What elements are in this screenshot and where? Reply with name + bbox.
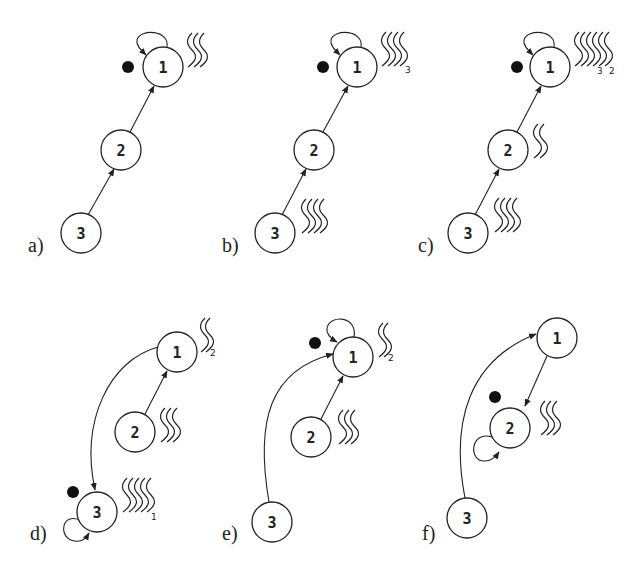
wave-icon-node-2 (541, 401, 561, 435)
node-3: 3 (61, 213, 101, 253)
panel-label-b: b) (222, 234, 239, 257)
svg-text:1: 1 (172, 344, 181, 362)
svg-text:3: 3 (76, 225, 85, 243)
svg-text:3: 3 (270, 225, 279, 243)
node-2: 2 (115, 412, 155, 452)
svg-text:2: 2 (505, 420, 514, 438)
token-dot (67, 486, 79, 498)
svg-text:1: 1 (545, 59, 554, 77)
panel-d: 1 2 3 2 1 d) (30, 318, 216, 545)
panel-label-d: d) (30, 522, 47, 545)
svg-text:2: 2 (309, 142, 318, 160)
panel-c: 1 2 3 3 2 c) (418, 32, 615, 257)
edge-3-to-2 (282, 169, 306, 215)
edge-2-to-1 (323, 86, 348, 132)
svg-text:3: 3 (463, 225, 472, 243)
edge-2-to-1 (130, 86, 154, 132)
token-dot (309, 337, 321, 349)
wave-icon-node-1: 2 (379, 323, 394, 363)
wave-subscript: 2 (609, 66, 615, 76)
token-dot (317, 61, 329, 73)
svg-text:3: 3 (267, 514, 276, 532)
wave-icon-node-3 (495, 198, 521, 232)
svg-text:2: 2 (503, 142, 512, 160)
wave-subscript: 2 (388, 353, 394, 363)
node-1: 1 (537, 318, 577, 358)
node-3: 3 (77, 492, 117, 532)
panel-b: 1 2 3 3 b) (222, 32, 411, 257)
svg-text:1: 1 (348, 349, 357, 367)
panel-a: 1 2 3 a) (28, 32, 207, 257)
svg-text:1: 1 (552, 330, 561, 348)
node-3: 3 (448, 213, 488, 253)
node-1: 1 (143, 47, 183, 87)
panel-e: 1 2 3 2 e) (222, 319, 394, 545)
wave-subscript: 3 (597, 66, 603, 76)
svg-text:1: 1 (158, 59, 167, 77)
node-2: 2 (490, 408, 530, 448)
edge-3-to-2 (88, 169, 114, 215)
edge-3-to-2 (475, 169, 499, 215)
token-dot (511, 61, 523, 73)
token-dot (122, 61, 134, 73)
node-1: 1 (337, 47, 377, 87)
wave-subscript: 2 (210, 348, 216, 358)
node-1: 1 (530, 47, 570, 87)
panel-f: 1 2 3 f) (422, 318, 577, 545)
wave-icon-node-1: 3 2 (575, 32, 615, 76)
panel-label-c: c) (418, 234, 434, 257)
node-1: 1 (157, 332, 197, 372)
wave-icon-node-2 (161, 408, 181, 442)
node-3: 3 (252, 502, 292, 542)
node-3: 3 (255, 213, 295, 253)
svg-text:3: 3 (92, 504, 101, 522)
wave-icon-node-3: 1 (123, 478, 157, 522)
node-3: 3 (447, 498, 487, 538)
svg-text:2: 2 (130, 424, 139, 442)
wave-subscript: 3 (405, 65, 411, 75)
node-2: 2 (101, 130, 141, 170)
svg-text:2: 2 (306, 429, 315, 447)
wave-icon-node-1: 3 (382, 32, 411, 75)
wave-icon-node-1: 2 (201, 318, 216, 358)
node-2: 2 (488, 130, 528, 170)
edge-2-to-1 (321, 376, 343, 419)
node-2: 2 (294, 130, 334, 170)
panel-label-f: f) (422, 522, 435, 545)
token-dot (489, 391, 501, 403)
svg-text:1: 1 (352, 59, 361, 77)
svg-text:2: 2 (116, 142, 125, 160)
svg-text:3: 3 (462, 510, 471, 528)
wave-icon-node-2 (339, 410, 359, 444)
wave-icon-node-2 (534, 124, 548, 158)
edge-1-to-2 (525, 356, 547, 406)
diagram-canvas: 1 2 3 a) 1 2 3 3 b) 1 2 3 (0, 0, 639, 574)
wave-icon-node-3 (302, 199, 328, 233)
wave-subscript: 1 (151, 512, 157, 522)
node-1: 1 (333, 337, 373, 377)
edge-2-to-1 (145, 371, 167, 414)
panel-label-a: a) (28, 234, 44, 257)
panel-label-e: e) (222, 522, 238, 545)
wave-icon-node-1 (188, 33, 208, 67)
node-2: 2 (291, 417, 331, 457)
